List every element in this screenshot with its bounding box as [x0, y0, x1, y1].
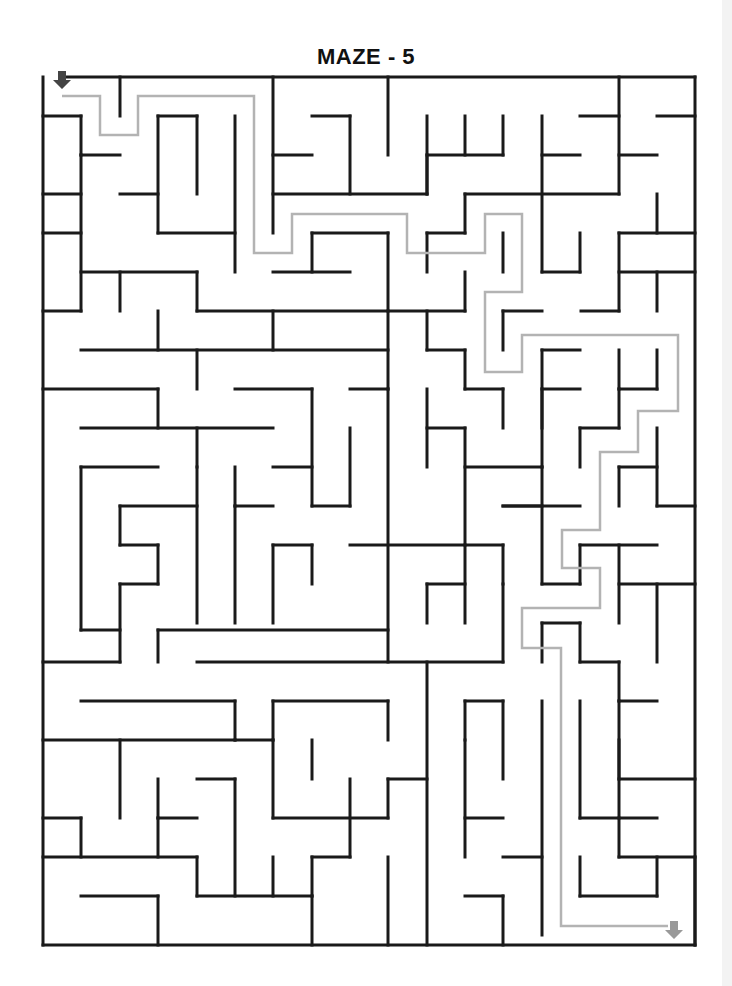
end-arrow-icon	[665, 921, 683, 939]
start-arrow-icon	[53, 71, 71, 89]
maze-walls	[43, 77, 695, 945]
solution-path	[62, 96, 678, 926]
maze-board	[0, 0, 732, 986]
